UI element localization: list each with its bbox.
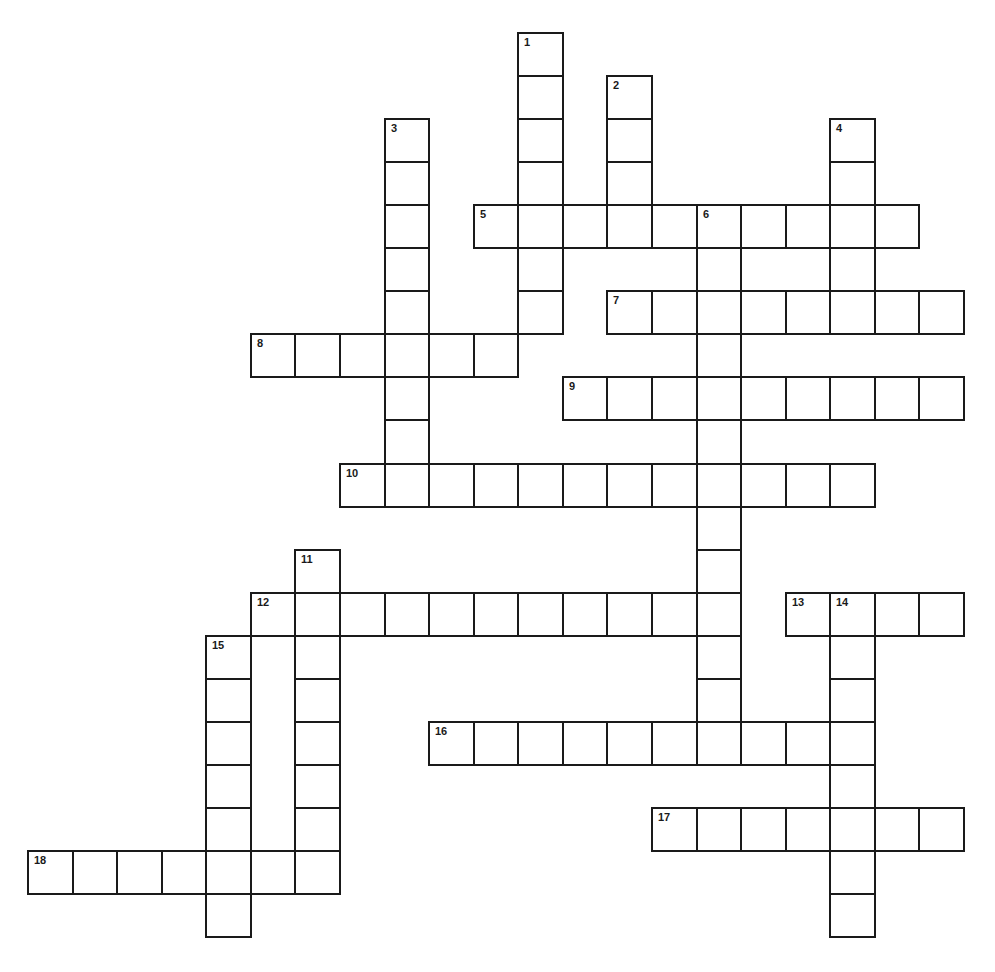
cell-letter-input[interactable] — [386, 378, 428, 419]
cell-letter-input[interactable] — [876, 206, 918, 247]
cell-letter-input[interactable] — [876, 378, 918, 419]
crossword-cell[interactable] — [473, 333, 519, 378]
crossword-cell[interactable]: 3 — [384, 118, 430, 163]
cell-letter-input[interactable] — [698, 809, 740, 850]
cell-letter-input[interactable] — [564, 378, 606, 419]
crossword-cell[interactable] — [517, 161, 564, 206]
crossword-cell[interactable] — [874, 290, 920, 335]
crossword-cell[interactable]: 2 — [606, 75, 653, 120]
cell-letter-input[interactable] — [831, 120, 874, 161]
crossword-cell[interactable] — [294, 807, 341, 852]
cell-letter-input[interactable] — [876, 809, 918, 850]
crossword-cell[interactable]: 15 — [205, 635, 252, 680]
crossword-cell[interactable] — [250, 850, 296, 895]
cell-letter-input[interactable] — [475, 335, 517, 376]
cell-letter-input[interactable] — [296, 809, 339, 850]
crossword-cell[interactable] — [294, 721, 341, 766]
cell-letter-input[interactable] — [920, 378, 963, 419]
crossword-cell[interactable] — [696, 592, 742, 637]
crossword-cell[interactable]: 6 — [696, 204, 742, 249]
crossword-cell[interactable] — [384, 376, 430, 421]
crossword-cell[interactable] — [606, 118, 653, 163]
cell-letter-input[interactable] — [296, 551, 339, 592]
cell-letter-input[interactable] — [742, 292, 785, 333]
cell-letter-input[interactable] — [519, 594, 562, 635]
cell-letter-input[interactable] — [698, 292, 740, 333]
cell-letter-input[interactable] — [920, 809, 963, 850]
crossword-cell[interactable] — [384, 463, 430, 508]
crossword-cell[interactable]: 18 — [27, 850, 74, 895]
crossword-cell[interactable] — [205, 721, 252, 766]
cell-letter-input[interactable] — [341, 335, 384, 376]
cell-letter-input[interactable] — [430, 335, 473, 376]
cell-letter-input[interactable] — [698, 421, 740, 463]
crossword-cell[interactable] — [428, 333, 475, 378]
cell-letter-input[interactable] — [386, 594, 428, 635]
cell-letter-input[interactable] — [698, 551, 740, 592]
crossword-cell[interactable] — [517, 290, 564, 335]
crossword-cell[interactable] — [606, 204, 653, 249]
crossword-cell[interactable] — [606, 161, 653, 206]
crossword-cell[interactable] — [205, 764, 252, 809]
cell-letter-input[interactable] — [831, 723, 874, 764]
crossword-cell[interactable] — [696, 549, 742, 594]
crossword-cell[interactable] — [294, 850, 341, 895]
cell-letter-input[interactable] — [386, 249, 428, 290]
crossword-cell[interactable] — [829, 893, 876, 938]
cell-letter-input[interactable] — [207, 766, 250, 807]
cell-letter-input[interactable] — [564, 594, 606, 635]
crossword-cell[interactable] — [829, 247, 876, 292]
cell-letter-input[interactable] — [742, 206, 785, 247]
crossword-cell[interactable]: 14 — [829, 592, 876, 637]
crossword-cell[interactable] — [829, 376, 876, 421]
crossword-cell[interactable] — [294, 333, 341, 378]
crossword-cell[interactable] — [651, 290, 698, 335]
cell-letter-input[interactable] — [698, 723, 740, 764]
cell-letter-input[interactable] — [475, 723, 517, 764]
crossword-cell[interactable] — [696, 463, 742, 508]
crossword-cell[interactable] — [384, 333, 430, 378]
crossword-cell[interactable] — [161, 850, 207, 895]
cell-letter-input[interactable] — [519, 465, 562, 506]
cell-letter-input[interactable] — [386, 335, 428, 376]
crossword-cell[interactable] — [918, 807, 965, 852]
cell-letter-input[interactable] — [653, 465, 696, 506]
crossword-cell[interactable] — [696, 721, 742, 766]
cell-letter-input[interactable] — [787, 206, 829, 247]
cell-letter-input[interactable] — [207, 852, 250, 893]
crossword-cell[interactable] — [696, 635, 742, 680]
cell-letter-input[interactable] — [386, 292, 428, 333]
cell-letter-input[interactable] — [519, 34, 562, 75]
crossword-cell[interactable] — [517, 75, 564, 120]
cell-letter-input[interactable] — [163, 852, 205, 893]
crossword-cell[interactable]: 13 — [785, 592, 831, 637]
cell-letter-input[interactable] — [608, 77, 651, 118]
crossword-cell[interactable] — [72, 850, 118, 895]
crossword-cell[interactable] — [874, 807, 920, 852]
cell-letter-input[interactable] — [742, 465, 785, 506]
cell-letter-input[interactable] — [564, 206, 606, 247]
cell-letter-input[interactable] — [787, 292, 829, 333]
crossword-cell[interactable]: 4 — [829, 118, 876, 163]
crossword-cell[interactable] — [339, 592, 386, 637]
crossword-cell[interactable] — [562, 463, 608, 508]
crossword-cell[interactable] — [785, 463, 831, 508]
cell-letter-input[interactable] — [698, 680, 740, 721]
cell-letter-input[interactable] — [519, 723, 562, 764]
cell-letter-input[interactable] — [519, 120, 562, 161]
cell-letter-input[interactable] — [608, 292, 651, 333]
cell-letter-input[interactable] — [519, 77, 562, 118]
crossword-cell[interactable] — [517, 721, 564, 766]
crossword-cell[interactable]: 8 — [250, 333, 296, 378]
cell-letter-input[interactable] — [742, 809, 785, 850]
cell-letter-input[interactable] — [475, 206, 517, 247]
crossword-cell[interactable] — [829, 635, 876, 680]
crossword-cell[interactable] — [562, 721, 608, 766]
cell-letter-input[interactable] — [430, 723, 473, 764]
cell-letter-input[interactable] — [296, 723, 339, 764]
cell-letter-input[interactable] — [296, 594, 339, 635]
cell-letter-input[interactable] — [831, 809, 874, 850]
cell-letter-input[interactable] — [831, 594, 874, 635]
cell-letter-input[interactable] — [207, 680, 250, 721]
cell-letter-input[interactable] — [296, 852, 339, 893]
